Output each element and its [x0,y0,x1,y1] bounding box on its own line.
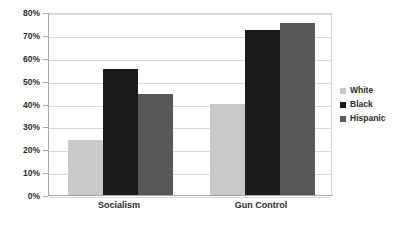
bar-chart: 0%10%20%30%40%50%60%70%80% SocialismGun … [0,0,393,233]
legend-item: Black [340,98,393,111]
y-axis-tick-mark [43,196,48,197]
y-axis-tick-label: 10% [0,169,40,178]
bar [245,30,280,195]
legend: WhiteBlackHispanic [340,84,393,126]
y-axis-tick-label: 40% [0,101,40,110]
bar [210,104,245,196]
legend-item: Hispanic [340,112,393,125]
gridline [49,14,331,15]
y-axis-tick-label: 30% [0,123,40,132]
bar [68,140,103,195]
y-axis-tick-label: 70% [0,32,40,41]
legend-swatch-icon [340,102,346,108]
x-axis-category-label: Gun Control [190,201,332,211]
legend-swatch-icon [340,88,346,94]
x-axis-category-label: Socialism [48,201,190,211]
gridline [49,197,331,198]
bar [138,94,173,195]
bar [280,23,315,195]
legend-item-label: Hispanic [350,114,385,123]
legend-item-label: Black [350,100,373,109]
y-axis-tick-label: 0% [0,192,40,201]
bar [103,69,138,195]
legend-item: White [340,84,393,97]
y-axis-line [48,13,49,196]
legend-item-label: White [350,86,373,95]
plot-area [48,13,332,196]
legend-swatch-icon [340,116,346,122]
x-axis-line [48,195,333,196]
y-axis-tick-label: 50% [0,78,40,87]
y-axis-tick-label: 20% [0,146,40,155]
y-axis-tick-label: 80% [0,9,40,18]
y-axis-tick-label: 60% [0,55,40,64]
